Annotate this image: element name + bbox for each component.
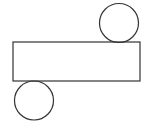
lateral-surface-rectangle — [13, 42, 140, 81]
top-circle-base — [100, 4, 139, 43]
cylinder-net — [0, 0, 151, 129]
diagram-canvas — [0, 0, 151, 129]
bottom-circle-base — [15, 81, 54, 120]
